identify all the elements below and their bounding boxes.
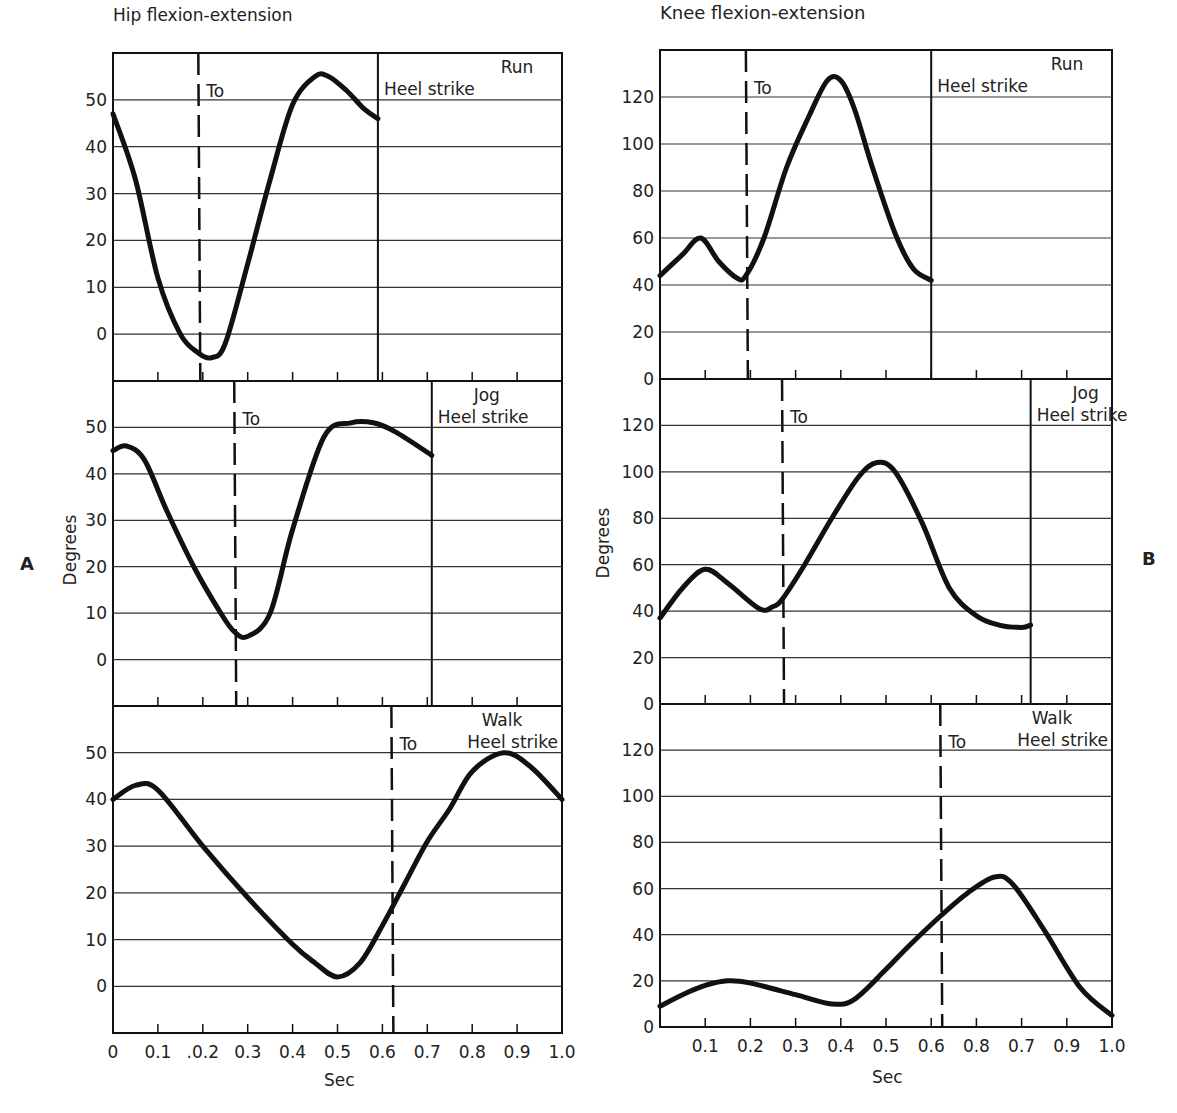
x-tick-label: 0.6 — [918, 1036, 945, 1056]
y-tick-label: 0 — [96, 324, 107, 344]
y-tick-label: 0 — [96, 650, 107, 670]
x-tick-label: 0.5 — [324, 1042, 351, 1062]
y-tick-label: 60 — [632, 555, 654, 575]
panel-walk: 020406080100120ToHeel strikeWalk — [622, 704, 1112, 1037]
y-tick-label: 50 — [85, 417, 107, 437]
x-tick-label: 1.0 — [548, 1042, 575, 1062]
y-tick-label: 40 — [85, 137, 107, 157]
svg-text:To: To — [789, 407, 808, 427]
knee-chart: 020406080100120ToHeel strikeRun020406080… — [622, 50, 1128, 1056]
panel-a-label: A — [20, 553, 34, 574]
y-tick-label: 40 — [85, 464, 107, 484]
y-tick-label: 30 — [85, 184, 107, 204]
x-tick-label: 0.9 — [504, 1042, 531, 1062]
svg-text:To: To — [398, 734, 417, 754]
x-tick-label: .0.2 — [187, 1042, 219, 1062]
panel-run: 01020304050ToHeel strikeRun — [85, 53, 562, 381]
x-tick-label: 0.7 — [1008, 1036, 1035, 1056]
svg-text:Jog: Jog — [473, 385, 500, 405]
svg-text:Heel strike: Heel strike — [467, 732, 558, 752]
svg-text:To: To — [753, 78, 772, 98]
svg-text:Run: Run — [1051, 54, 1084, 74]
y-tick-label: 40 — [632, 601, 654, 621]
y-tick-label: 120 — [622, 415, 654, 435]
y-tick-label: 20 — [85, 230, 107, 250]
svg-text:To: To — [947, 732, 966, 752]
svg-text:Heel strike: Heel strike — [937, 76, 1028, 96]
x-tick-label: 0.6 — [369, 1042, 396, 1062]
x-tick-label: 0.5 — [872, 1036, 899, 1056]
y-tick-label: 10 — [85, 930, 107, 950]
y-tick-label: 100 — [622, 134, 654, 154]
hip-chart: 01020304050ToHeel strikeRun01020304050To… — [85, 53, 575, 1062]
x-tick-label: 0.3 — [782, 1036, 809, 1056]
svg-text:Heel strike: Heel strike — [384, 79, 475, 99]
y-tick-label: 0 — [643, 694, 654, 714]
y-tick-label: 0 — [96, 976, 107, 996]
x-tick-label: 1.0 — [1098, 1036, 1125, 1056]
y-tick-label: 30 — [85, 510, 107, 530]
knee-ylabel: Degrees — [593, 503, 613, 583]
panel-jog: 020406080100120ToHeel strikeJog — [622, 379, 1128, 714]
y-tick-label: 80 — [632, 832, 654, 852]
y-tick-label: 40 — [85, 789, 107, 809]
x-tick-label: 0.8 — [963, 1036, 990, 1056]
x-tick-label: 0.4 — [827, 1036, 854, 1056]
y-tick-label: 20 — [85, 883, 107, 903]
y-tick-label: 20 — [632, 971, 654, 991]
y-tick-label: 20 — [632, 648, 654, 668]
y-tick-label: 0 — [643, 1017, 654, 1037]
svg-text:To: To — [241, 409, 260, 429]
y-tick-label: 120 — [622, 740, 654, 760]
y-tick-label: 100 — [622, 786, 654, 806]
hip-xlabel: Sec — [324, 1070, 355, 1090]
svg-text:Run: Run — [501, 57, 534, 77]
gait-charts: 01020304050ToHeel strikeRun01020304050To… — [0, 0, 1177, 1113]
knee-xlabel: Sec — [872, 1067, 903, 1087]
data-curve — [113, 74, 378, 358]
data-curve — [113, 421, 432, 637]
panel-b-label: B — [1142, 548, 1156, 569]
y-tick-label: 120 — [622, 87, 654, 107]
data-curve — [660, 462, 1031, 627]
hip-ylabel: Degrees — [60, 510, 80, 590]
y-tick-label: 50 — [85, 90, 107, 110]
x-tick-label: 0.2 — [737, 1036, 764, 1056]
data-curve — [660, 876, 1112, 1015]
data-curve — [660, 77, 931, 281]
panel-jog: 01020304050ToHeel strikeJog — [85, 381, 562, 706]
svg-text:Jog: Jog — [1072, 383, 1099, 403]
y-tick-label: 30 — [85, 836, 107, 856]
y-tick-label: 10 — [85, 277, 107, 297]
x-tick-label: 0.1 — [144, 1042, 171, 1062]
x-tick-label: 0.4 — [279, 1042, 306, 1062]
x-tick-label: 0.3 — [234, 1042, 261, 1062]
svg-text:Heel strike: Heel strike — [1017, 730, 1108, 750]
hip-title: Hip flexion-extension — [113, 5, 293, 25]
x-tick-label: 0.9 — [1053, 1036, 1080, 1056]
y-tick-label: 10 — [85, 603, 107, 623]
svg-text:Walk: Walk — [482, 710, 523, 730]
y-tick-label: 80 — [632, 508, 654, 528]
data-curve — [113, 753, 562, 977]
panel-run: 020406080100120ToHeel strikeRun — [622, 50, 1112, 389]
y-tick-label: 50 — [85, 743, 107, 763]
y-tick-label: 40 — [632, 925, 654, 945]
y-tick-label: 80 — [632, 181, 654, 201]
x-tick-label: 0.1 — [692, 1036, 719, 1056]
y-tick-label: 20 — [632, 322, 654, 342]
panel-walk: 01020304050ToHeel strikeWalk — [85, 706, 562, 1033]
y-tick-label: 40 — [632, 275, 654, 295]
x-tick-label: 0 — [108, 1042, 119, 1062]
knee-title: Knee flexion-extension — [660, 2, 866, 23]
svg-text:Heel strike: Heel strike — [438, 407, 529, 427]
y-tick-label: 60 — [632, 228, 654, 248]
x-tick-label: 0.8 — [459, 1042, 486, 1062]
y-tick-label: 100 — [622, 462, 654, 482]
y-tick-label: 60 — [632, 879, 654, 899]
svg-text:Heel strike: Heel strike — [1037, 405, 1128, 425]
y-tick-label: 0 — [643, 369, 654, 389]
svg-text:To: To — [205, 81, 224, 101]
svg-text:Walk: Walk — [1032, 708, 1073, 728]
y-tick-label: 20 — [85, 557, 107, 577]
